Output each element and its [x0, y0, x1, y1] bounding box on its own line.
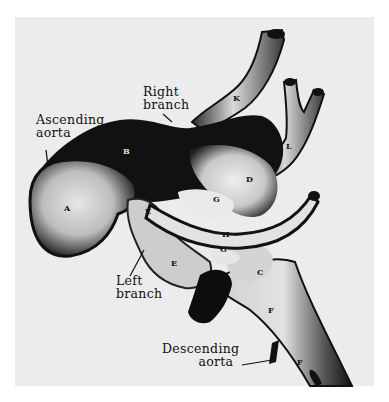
letter-f-lower: F — [297, 358, 303, 366]
label-line: aorta — [36, 126, 105, 139]
letter-g-lower: G — [220, 245, 227, 253]
vessel-h-opening — [308, 191, 320, 201]
letter-e-lower: E — [171, 259, 177, 267]
letter-f-upper: F — [268, 306, 274, 314]
label-left-branch: Left branch — [116, 274, 162, 300]
letter-g-upper: G — [213, 195, 220, 203]
label-descending-aorta: Descending aorta — [162, 342, 239, 368]
letter-l: L — [286, 142, 292, 150]
letter-a: A — [64, 204, 70, 212]
vessel-l-opening-right — [312, 88, 324, 96]
vessel-k-opening — [267, 29, 285, 39]
label-line: branch — [143, 98, 189, 111]
letter-e-upper: E — [145, 207, 151, 215]
leader-descending-aorta — [242, 360, 272, 365]
label-line: aorta — [162, 355, 239, 368]
leader-right-branch — [163, 114, 172, 122]
label-ascending-aorta: Ascending aorta — [36, 113, 105, 139]
letter-d: D — [246, 175, 253, 183]
ascending-aorta-a — [30, 160, 136, 256]
letter-k: K — [233, 94, 240, 102]
letter-b: B — [123, 147, 130, 155]
right-branch-vessel-k — [192, 30, 284, 132]
letter-c: C — [257, 268, 263, 276]
letter-h: H — [222, 230, 230, 238]
vessel-l-opening-left — [284, 78, 296, 86]
label-right-branch: Right branch — [143, 85, 189, 111]
label-line: branch — [116, 287, 162, 300]
